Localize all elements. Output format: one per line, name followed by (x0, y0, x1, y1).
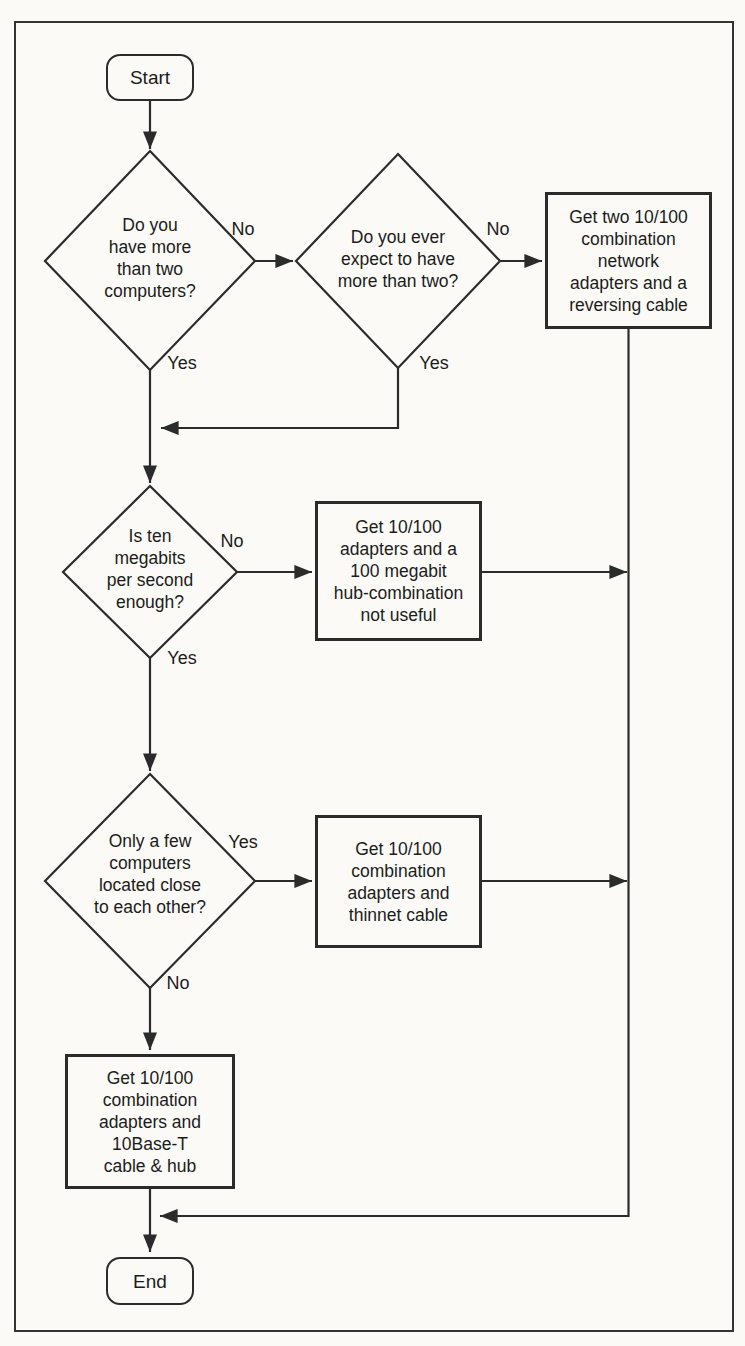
label-d4-no: No (166, 973, 189, 994)
label-d2-no: No (486, 219, 509, 240)
decision-expect-more-than-two-label: Do you ever expect to have more than two… (313, 226, 483, 292)
label-d3-no: No (220, 531, 243, 552)
process-reversing-cable: Get two 10/100 combination network adapt… (545, 192, 712, 329)
process-10base-t-hub: Get 10/100 combination adapters and 10Ba… (65, 1054, 235, 1189)
decision-few-computers-close-label: Only a few computers located close to ea… (65, 830, 235, 918)
start-terminal: Start (106, 54, 194, 101)
flowchart-canvas: Start End Do you have more than two comp… (0, 0, 745, 1346)
decision-ten-megabits-label: Is ten megabits per second enough? (65, 525, 235, 613)
end-terminal: End (106, 1257, 194, 1305)
label-d1-no: No (231, 219, 254, 240)
process-100-megabit-hub: Get 10/100 adapters and a 100 megabit hu… (315, 501, 482, 641)
decision-have-more-than-two-label: Do you have more than two computers? (65, 214, 235, 302)
edge-d2-yes-merge-left (161, 368, 398, 428)
label-d1-yes: Yes (167, 353, 196, 374)
label-d4-yes: Yes (228, 832, 257, 853)
process-thinnet-cable: Get 10/100 combination adapters and thin… (315, 815, 482, 948)
label-d2-yes: Yes (419, 353, 448, 374)
label-d3-yes: Yes (167, 648, 196, 669)
